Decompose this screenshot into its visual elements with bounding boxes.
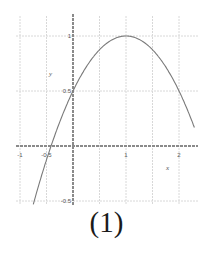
function-graph: -1-0.51210.5-0.5xy — [0, 0, 213, 210]
parabola-curve — [33, 36, 194, 204]
x-tick-label: 2 — [177, 152, 181, 158]
y-tick-label: -0.5 — [61, 198, 72, 204]
y-axis-label: y — [48, 70, 53, 78]
x-axis-label: x — [165, 164, 170, 172]
y-tick-label: 0.5 — [63, 88, 72, 94]
x-tick-label: 1 — [124, 152, 128, 158]
figure-caption: (1) — [0, 206, 213, 239]
x-tick-label: -1 — [17, 152, 23, 158]
